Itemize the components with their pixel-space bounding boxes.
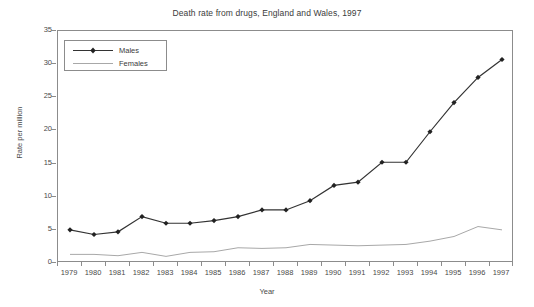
x-tick-mark-15 [417,262,418,266]
y-tick-30: 30 [12,59,52,67]
y-tick-5: 5 [12,225,52,233]
series-line-females [70,227,502,257]
x-tick-1993: 1993 [397,268,414,277]
x-tick-mark-0 [57,262,58,266]
x-axis-tick-labels: 1979198019811982198319841985198619871988… [57,268,513,282]
x-tick-1995: 1995 [445,268,462,277]
data-point-1986 [235,214,240,219]
legend-item-females: Females [65,57,166,70]
y-tick-25: 25 [12,92,52,100]
x-tick-1994: 1994 [421,268,438,277]
x-tick-mark-6 [201,262,202,266]
x-tick-mark-7 [225,262,226,266]
x-tick-mark-14 [393,262,394,266]
data-point-1985 [211,218,216,223]
x-axis-label: Year [0,287,534,296]
legend-label-males: Males [119,46,139,55]
x-tick-1983: 1983 [157,268,174,277]
y-tick-mark-0 [51,262,56,263]
y-tick-mark-5 [51,229,56,230]
data-point-1980 [91,232,96,237]
x-tick-1987: 1987 [253,268,270,277]
y-tick-20: 20 [12,125,52,133]
x-tick-mark-16 [441,262,442,266]
y-tick-mark-20 [51,129,56,130]
x-tick-mark-12 [345,262,346,266]
y-axis-tick-labels: 05101520253035 [8,0,52,307]
chart-figure: Death rate from drugs, England and Wales… [0,0,534,307]
y-tick-15: 15 [12,159,52,167]
x-tick-1991: 1991 [349,268,366,277]
x-tick-mark-1 [81,262,82,266]
x-tick-1985: 1985 [205,268,222,277]
x-tick-mark-19 [512,262,513,266]
y-tick-mark-30 [51,63,56,64]
x-tick-mark-8 [249,262,250,266]
x-tick-1988: 1988 [277,268,294,277]
x-tick-mark-2 [105,262,106,266]
x-tick-1996: 1996 [469,268,486,277]
data-point-1984 [187,221,192,226]
legend-swatch-males [71,44,115,57]
y-tick-10: 10 [12,192,52,200]
data-point-1979 [67,227,72,232]
x-tick-mark-4 [153,262,154,266]
y-tick-35: 35 [12,26,52,34]
x-tick-mark-13 [369,262,370,266]
y-tick-mark-25 [51,96,56,97]
legend-label-females: Females [119,59,148,68]
data-point-1983 [163,221,168,226]
x-tick-1980: 1980 [85,268,102,277]
x-tick-1992: 1992 [373,268,390,277]
chart-legend: Males Females [64,40,167,71]
y-tick-mark-10 [51,196,56,197]
y-tick-0: 0 [12,258,52,266]
x-tick-mark-9 [273,262,274,266]
x-tick-mark-18 [489,262,490,266]
y-tick-mark-15 [51,163,56,164]
legend-swatch-females [71,57,115,70]
data-point-1988 [283,207,288,212]
x-tick-1990: 1990 [325,268,342,277]
x-tick-1989: 1989 [301,268,318,277]
x-tick-1982: 1982 [133,268,150,277]
y-tick-mark-35 [51,30,56,31]
x-tick-mark-5 [177,262,178,266]
x-tick-1986: 1986 [229,268,246,277]
x-tick-mark-3 [129,262,130,266]
x-tick-mark-10 [297,262,298,266]
x-tick-mark-17 [465,262,466,266]
legend-item-males: Males [65,44,166,57]
x-tick-1997: 1997 [493,268,510,277]
x-tick-1981: 1981 [109,268,126,277]
chart-title: Death rate from drugs, England and Wales… [0,8,534,18]
data-point-1987 [259,207,264,212]
x-tick-1984: 1984 [181,268,198,277]
x-tick-mark-11 [321,262,322,266]
x-tick-1979: 1979 [61,268,78,277]
